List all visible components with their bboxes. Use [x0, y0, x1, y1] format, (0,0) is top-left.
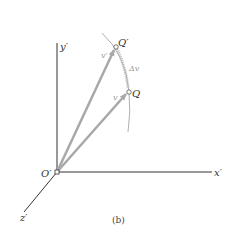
origin-label: O′ — [41, 168, 52, 179]
v-prime-label: v′ — [101, 51, 108, 60]
v-vector — [57, 94, 126, 172]
v-label: v — [113, 93, 118, 102]
delta-v-label: Δv — [128, 64, 140, 73]
x-axis-label: x′ — [214, 167, 223, 178]
v-prime-vector — [57, 50, 114, 172]
diagram-svg: y′ x′ z′ O′ Q′ Q v′ v Δv (b) — [0, 0, 236, 240]
q-label: Q — [132, 88, 140, 99]
velocity-diagram: y′ x′ z′ O′ Q′ Q v′ v Δv (b) — [0, 0, 236, 240]
q-prime-label: Q′ — [118, 37, 129, 48]
origin-point — [55, 170, 59, 174]
figure-caption: (b) — [112, 215, 125, 225]
point-q — [127, 90, 131, 94]
y-axis-label: y′ — [59, 41, 69, 52]
z-axis-label: z′ — [19, 212, 28, 223]
